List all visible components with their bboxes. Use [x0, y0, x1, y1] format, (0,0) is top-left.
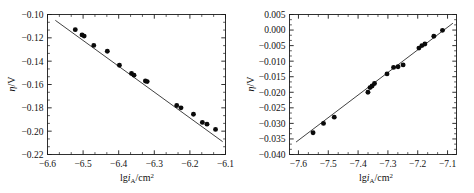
- left-xtick-label: −6.6: [39, 159, 56, 169]
- right-data-point: [372, 81, 377, 86]
- left-xtick-label: −6.2: [181, 159, 198, 169]
- left-xtick-label: −6.3: [146, 159, 163, 169]
- right-xtick-label: −7.5: [320, 159, 337, 169]
- right-ylabel-unit: /V: [245, 76, 256, 87]
- left-data-point: [105, 49, 110, 54]
- left-ytick-label: −0.16: [22, 80, 44, 90]
- left-data-point: [200, 120, 205, 125]
- left-data-point: [179, 105, 184, 110]
- right-ytick-label: −0.005: [259, 41, 286, 51]
- right-data-point: [440, 28, 445, 33]
- tafel-plot-figure: −6.6−6.5−6.4−6.3−6.2−6.1−0.10−0.12−0.14−…: [0, 0, 474, 193]
- right-xlabel-mid: /cm: [375, 172, 390, 183]
- left-data-point: [205, 122, 210, 127]
- left-data-point: [191, 112, 196, 117]
- left-tick-labels: −6.6−6.5−6.4−6.3−6.2−6.1−0.10−0.12−0.14−…: [22, 10, 235, 169]
- left-xtick-label: −6.5: [74, 159, 91, 169]
- right-xtick-label: −7.3: [379, 159, 396, 169]
- left-data-point: [132, 73, 137, 78]
- left-data-point: [117, 63, 122, 68]
- right-ytick-label: −0.040: [259, 150, 286, 160]
- left-data-points: [73, 27, 218, 132]
- right-data-point: [431, 34, 436, 39]
- right-ytick-label: −0.035: [259, 134, 286, 144]
- chart-panel-left: −6.6−6.5−6.4−6.3−6.2−6.1−0.10−0.12−0.14−…: [0, 0, 237, 193]
- right-ytick-label: −0.020: [259, 88, 286, 98]
- right-ytick-label: −0.010: [259, 57, 286, 67]
- left-data-point: [82, 34, 87, 39]
- left-ytick-label: −0.22: [22, 150, 44, 160]
- left-xlabel-prefix: lg: [120, 172, 128, 183]
- left-ylabel-unit: /V: [6, 76, 17, 87]
- right-ytick-label: 0.000: [264, 25, 286, 35]
- right-data-point: [321, 121, 326, 126]
- right-ytick-label: −0.025: [259, 103, 286, 113]
- right-data-point: [401, 62, 406, 67]
- chart-left-svg: −6.6−6.5−6.4−6.3−6.2−6.1−0.10−0.12−0.14−…: [0, 0, 237, 193]
- right-xlabel: lgiA/cm2: [359, 172, 393, 185]
- left-fit-line: [55, 20, 222, 141]
- left-data-point: [91, 43, 96, 48]
- left-xtick-label: −6.4: [110, 159, 127, 169]
- left-xlabel: lgiA/cm2: [120, 172, 154, 185]
- left-tickmarks: [48, 15, 226, 155]
- chart-right-svg: −7.6−7.5−7.4−7.3−7.2−7.10.0050.000−0.005…: [237, 0, 474, 193]
- right-xlabel-text: lgiA/cm2: [359, 172, 393, 185]
- left-ytick-label: −0.18: [22, 103, 44, 113]
- right-data-point: [391, 65, 396, 70]
- left-data-point: [73, 27, 78, 32]
- right-data-point: [385, 71, 390, 76]
- right-xtick-label: −7.4: [349, 159, 366, 169]
- left-ylabel: η/V: [6, 76, 17, 92]
- right-data-point: [422, 42, 427, 47]
- left-xlabel-mid: /cm: [136, 172, 151, 183]
- right-ylabel-text: η/V: [245, 76, 256, 92]
- left-xlabel-text: lgiA/cm2: [120, 172, 154, 185]
- right-ylabel: η/V: [245, 76, 256, 92]
- right-xlabel-prefix: lg: [359, 172, 367, 183]
- left-xtick-label: −6.1: [217, 159, 234, 169]
- right-data-point: [396, 64, 401, 69]
- left-ytick-label: −0.10: [22, 10, 44, 20]
- left-data-point: [213, 127, 218, 132]
- right-xlabel-sup: 2: [390, 172, 394, 179]
- right-ytick-label: −0.015: [259, 72, 286, 82]
- right-xtick-label: −7.6: [290, 159, 307, 169]
- left-ytick-label: −0.20: [22, 127, 44, 137]
- right-data-point: [311, 130, 316, 135]
- right-data-point: [332, 115, 337, 120]
- left-ytick-label: −0.14: [22, 57, 44, 67]
- right-ytick-label: 0.005: [264, 10, 286, 20]
- right-xtick-label: −7.2: [409, 159, 426, 169]
- right-xtick-label: −7.1: [439, 159, 456, 169]
- left-ylabel-text: η/V: [6, 76, 17, 92]
- right-data-points: [311, 28, 445, 135]
- right-data-point: [365, 90, 370, 95]
- left-axis-frame: [48, 15, 226, 155]
- left-ytick-label: −0.12: [22, 33, 44, 43]
- right-tick-labels: −7.6−7.5−7.4−7.3−7.2−7.10.0050.000−0.005…: [259, 10, 457, 169]
- left-data-point: [145, 79, 150, 84]
- left-data-point: [174, 103, 179, 108]
- left-xlabel-sup: 2: [151, 172, 155, 179]
- chart-panel-right: −7.6−7.5−7.4−7.3−7.2−7.10.0050.000−0.005…: [237, 0, 474, 193]
- right-ytick-label: −0.030: [259, 119, 286, 129]
